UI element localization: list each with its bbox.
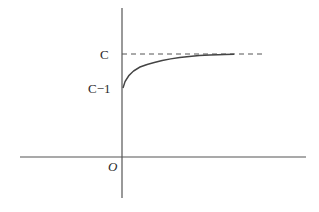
origin-label: O <box>108 159 118 174</box>
asymptote-label: C <box>100 47 109 62</box>
curve <box>123 54 234 88</box>
intercept-label: C−1 <box>88 81 111 96</box>
function-graph: C C−1 O <box>0 0 319 212</box>
